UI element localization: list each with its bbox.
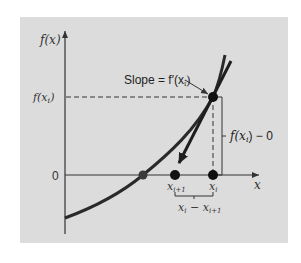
newton-raphson-diagram: f(x) f(xi) 0 x Slope = f′(xi) f(xi) − 0 … [0, 0, 301, 263]
xi-point [208, 170, 218, 180]
xi-label: xi [209, 180, 217, 194]
y-axis-label: f(x) [39, 33, 61, 47]
slope-label: Slope = f′(xi) [124, 73, 190, 88]
origin-label: 0 [52, 169, 59, 183]
tangent-point [208, 92, 218, 102]
rise-label: f(xi) − 0 [229, 129, 273, 144]
rise-bracket [213, 97, 222, 175]
fxi-label: f(xi) [32, 91, 54, 105]
xi1-label: xi+1 [167, 180, 186, 194]
root-point [139, 171, 148, 180]
xi1-point [170, 170, 180, 180]
x-axis-label: x [254, 178, 261, 192]
run-label: xi − xi+1 [178, 201, 221, 215]
